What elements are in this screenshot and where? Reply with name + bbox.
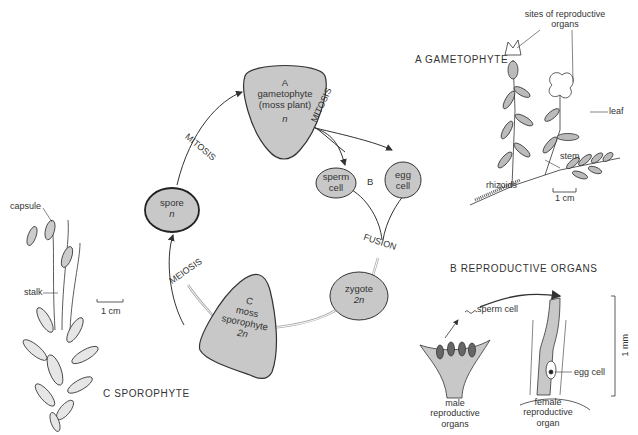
gametophyte-line2: (moss plant) <box>255 100 315 111</box>
egg-line2: cell <box>386 181 420 192</box>
panel-c-title: C SPOROPHYTE <box>103 388 190 400</box>
stalk-label: stalk <box>24 287 43 297</box>
sites-line1: sites of reproductive <box>520 9 610 19</box>
moss-life-cycle-diagram: A gametophyte (moss plant) n sperm cell … <box>0 0 638 435</box>
rhizoids-label: rhizoids <box>486 180 517 190</box>
spore-label: spore n <box>150 198 194 220</box>
zygote-ploidy: 2n <box>334 295 384 306</box>
male-line1: male <box>420 398 490 408</box>
diagram-artwork <box>0 0 638 435</box>
panel-b-title: B REPRODUCTIVE ORGANS <box>450 263 598 275</box>
leaf-label: leaf <box>609 106 624 116</box>
sperm-cell-b-label: sperm cell <box>477 304 518 314</box>
sites-line2: organs <box>520 19 610 29</box>
egg-cell-b-label: egg cell <box>574 367 605 377</box>
sites-label: sites of reproductive organs <box>520 9 610 30</box>
stem-label: stem <box>560 151 580 161</box>
spore-ploidy: n <box>150 209 194 220</box>
panel-a-title: A GAMETOPHYTE <box>415 54 508 66</box>
female-line1: female <box>513 397 583 407</box>
panel-a-scale: 1 cm <box>555 193 575 203</box>
zygote-label: zygote 2n <box>334 284 384 306</box>
sperm-line2: cell <box>318 183 354 194</box>
capsule-label: capsule <box>10 201 41 211</box>
female-line3: organ <box>513 418 583 428</box>
panel-c-scale: 1 cm <box>101 306 121 316</box>
male-line3: organs <box>420 419 490 429</box>
male-organs-label: male reproductive organs <box>420 398 490 429</box>
gametophyte-label: A gametophyte (moss plant) n <box>255 78 315 125</box>
gametophyte-ploidy: n <box>255 114 315 125</box>
panel-b-scale: 1 mm <box>620 334 630 357</box>
b-label: B <box>367 177 373 188</box>
sperm-cell-label: sperm cell <box>318 172 354 194</box>
female-line2: reproductive <box>513 407 583 417</box>
egg-cell-label: egg cell <box>386 170 420 192</box>
female-organ-label: female reproductive organ <box>513 397 583 428</box>
male-line2: reproductive <box>420 408 490 418</box>
